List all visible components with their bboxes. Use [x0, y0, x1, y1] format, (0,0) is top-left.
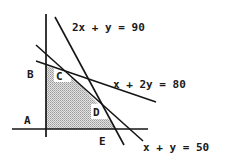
point-label-b: B: [27, 68, 34, 81]
constraint-label-x-plus-2y-80: x + 2y = 80: [113, 78, 186, 91]
point-label-e: E: [99, 135, 106, 148]
point-label-d: D: [93, 106, 100, 119]
constraint-label-2x-plus-y-90: 2x + y = 90: [72, 21, 145, 34]
lp-feasible-region-diagram: 2x + y = 90 x + 2y = 80 x + y = 50 A B C…: [0, 0, 231, 162]
point-label-c: C: [56, 70, 63, 83]
point-label-a: A: [24, 114, 31, 127]
constraint-label-x-plus-y-50: x + y = 50: [143, 141, 209, 154]
